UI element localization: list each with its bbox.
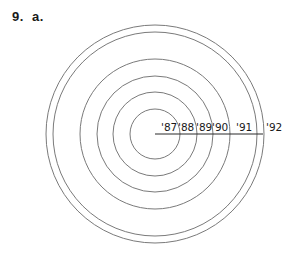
- year-label-88: '88: [178, 121, 194, 133]
- year-label-90: '90: [212, 121, 228, 133]
- year-label-89: '89: [196, 121, 212, 133]
- year-label-91: '91: [236, 121, 252, 133]
- year-label-92: '92: [266, 121, 282, 133]
- year-label-87: '87: [161, 121, 177, 133]
- concentric-circles-diagram: '87 '88 '89 '90 '91 '92: [0, 0, 295, 257]
